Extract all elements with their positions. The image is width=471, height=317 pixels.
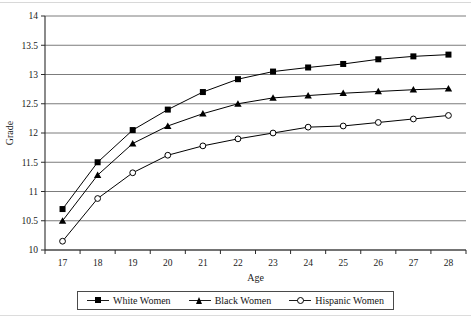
series-line-2 — [63, 115, 449, 241]
y-axis-title: Grade — [4, 120, 15, 145]
filled-square-marker-icon — [87, 296, 109, 306]
chart-legend: White Women Black Women Hispanic Women — [77, 291, 394, 310]
data-point-marker — [165, 107, 171, 113]
data-point-marker — [375, 120, 381, 126]
chart-figure: 1010.51111.51212.51313.51417181920212223… — [0, 0, 471, 317]
y-tick-label: 10 — [29, 245, 39, 255]
data-point-marker — [410, 116, 416, 122]
data-point-marker — [60, 206, 66, 212]
x-tick-label: 26 — [374, 258, 384, 268]
y-tick-label: 13.5 — [21, 41, 38, 51]
x-tick-label: 18 — [93, 258, 103, 268]
x-axis-title: Age — [247, 272, 264, 283]
x-tick-label: 28 — [444, 258, 454, 268]
data-point-marker — [305, 64, 311, 70]
y-tick-label: 11.5 — [22, 158, 39, 168]
data-point-marker — [305, 124, 311, 130]
data-point-marker — [200, 89, 206, 95]
x-tick-label: 25 — [338, 258, 348, 268]
plot-area-container: 1010.51111.51212.51313.51417181920212223… — [0, 8, 471, 284]
x-tick-label: 21 — [198, 258, 208, 268]
figure-top-rule — [0, 2, 471, 3]
x-tick-label: 19 — [128, 258, 138, 268]
data-point-marker — [375, 56, 381, 62]
figure-bottom-rule — [0, 315, 471, 316]
data-point-marker — [95, 159, 101, 165]
x-tick-label: 24 — [303, 258, 313, 268]
data-point-marker — [95, 196, 101, 202]
y-tick-label: 10.5 — [21, 216, 38, 226]
data-point-marker — [270, 130, 276, 136]
data-point-marker — [410, 53, 416, 59]
data-point-marker — [446, 113, 452, 119]
y-tick-label: 12 — [29, 128, 39, 138]
legend-label-black-women: Black Women — [215, 295, 272, 306]
x-tick-label: 22 — [233, 258, 243, 268]
x-tick-label: 20 — [163, 258, 173, 268]
data-point-marker — [164, 122, 171, 129]
data-point-marker — [235, 136, 241, 142]
data-point-marker — [235, 76, 241, 82]
data-point-marker — [200, 143, 206, 149]
open-circle-marker-icon — [289, 296, 311, 306]
data-point-marker — [130, 170, 136, 176]
data-point-marker — [340, 61, 346, 67]
x-tick-label: 27 — [409, 258, 419, 268]
series-line-0 — [63, 55, 449, 209]
legend-item-hispanic-women[interactable]: Hispanic Women — [289, 295, 384, 306]
data-point-marker — [129, 140, 136, 147]
legend-item-black-women[interactable]: Black Women — [189, 295, 272, 306]
y-tick-label: 11 — [29, 187, 38, 197]
line-chart-svg: 1010.51111.51212.51313.51417181920212223… — [0, 8, 471, 284]
data-point-marker — [60, 238, 66, 244]
y-tick-label: 12.5 — [21, 99, 38, 109]
y-tick-label: 14 — [29, 11, 39, 21]
legend-label-white-women: White Women — [113, 295, 171, 306]
data-point-marker — [130, 127, 136, 133]
x-tick-label: 23 — [268, 258, 278, 268]
data-point-marker — [270, 69, 276, 75]
data-point-marker — [340, 123, 346, 129]
series-line-1 — [63, 89, 449, 221]
data-point-marker — [165, 152, 171, 158]
y-tick-label: 13 — [29, 70, 39, 80]
data-point-marker — [445, 52, 451, 58]
legend-item-white-women[interactable]: White Women — [87, 295, 171, 306]
legend-label-hispanic-women: Hispanic Women — [315, 295, 384, 306]
x-tick-label: 17 — [58, 258, 68, 268]
filled-triangle-marker-icon — [189, 296, 211, 306]
